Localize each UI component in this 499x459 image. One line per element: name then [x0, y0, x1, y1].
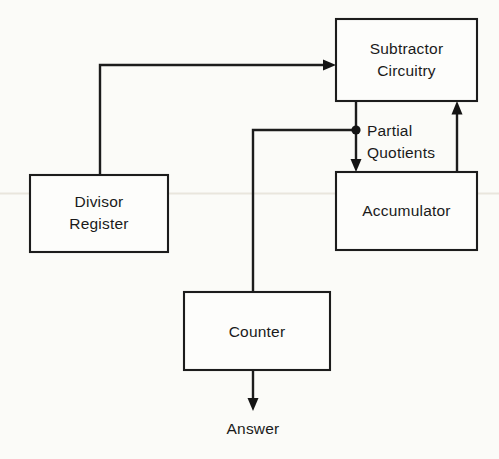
node-divisor-register[interactable]: Divisor Register — [30, 175, 168, 252]
edge-divisor-to-subtractor — [100, 60, 336, 176]
subtractor-circuitry-box[interactable] — [336, 19, 477, 101]
arrowhead-right-into-subtractor — [323, 60, 336, 71]
arrowhead-down-to-answer — [248, 398, 259, 411]
arrowhead-down-into-accumulator — [351, 159, 362, 172]
partial-quotients-label-line1: Partial — [367, 122, 412, 139]
diagram-canvas: Subtractor Circuitry Accumulator Divisor… — [0, 0, 499, 459]
node-subtractor-circuitry[interactable]: Subtractor Circuitry — [336, 19, 477, 101]
answer-label: Answer — [227, 420, 280, 437]
edge-subtractor-to-accumulator — [351, 101, 362, 172]
divisor-register-box[interactable] — [30, 175, 168, 252]
subtractor-circuitry-label-line1: Subtractor — [370, 40, 444, 57]
node-counter[interactable]: Counter — [184, 292, 330, 370]
arrowhead-up-into-subtractor — [452, 101, 463, 115]
node-accumulator[interactable]: Accumulator — [336, 172, 477, 250]
divisor-register-label-line1: Divisor — [75, 193, 124, 210]
edge-counter-to-answer — [248, 370, 259, 411]
edge-accumulator-to-subtractor — [452, 101, 463, 172]
partial-quotients-junction-dot — [351, 125, 360, 134]
divisor-register-label-line2: Register — [69, 215, 128, 232]
partial-quotients-label: Partial Quotients — [367, 122, 435, 161]
counter-label: Counter — [229, 323, 286, 340]
accumulator-label: Accumulator — [362, 202, 450, 219]
block-diagram: Subtractor Circuitry Accumulator Divisor… — [0, 0, 499, 459]
partial-quotients-label-line2: Quotients — [367, 144, 435, 161]
subtractor-circuitry-label-line2: Circuitry — [377, 62, 436, 79]
